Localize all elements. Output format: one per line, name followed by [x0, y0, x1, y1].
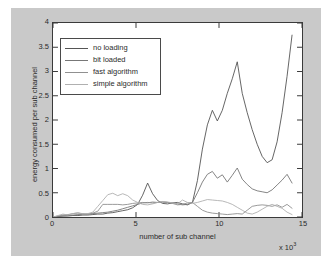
- y-tick-label: 4: [45, 18, 49, 26]
- x-axis-multiplier-exponent: 3: [293, 241, 296, 247]
- legend-item[interactable]: fast algorithm: [65, 66, 156, 78]
- x-axis-tick-labels: 051015: [52, 220, 303, 232]
- legend-item[interactable]: bit loaded: [65, 54, 156, 66]
- y-tick-label: 3: [45, 67, 49, 75]
- legend-item-label: no loading: [93, 44, 128, 52]
- y-tick-label: 0: [45, 214, 49, 222]
- y-tick-label: 1: [45, 165, 49, 173]
- legend: no loadingbit loadedfast algorithmsimple…: [60, 38, 161, 95]
- legend-item[interactable]: no loading: [65, 42, 156, 54]
- legend-line-icon: [65, 60, 88, 61]
- legend-item-label: bit loaded: [93, 56, 126, 64]
- x-axis-label: number of sub channel: [52, 232, 303, 241]
- y-tick-label: 0.5: [39, 190, 49, 198]
- x-axis-multiplier-base: x 10: [279, 243, 293, 252]
- legend-item-label: fast algorithm: [93, 68, 138, 76]
- legend-item-label: simple algorithm: [93, 80, 148, 88]
- y-tick-label: 2: [45, 116, 49, 124]
- series-line: [53, 168, 292, 217]
- x-tick-label: 10: [215, 220, 223, 228]
- x-axis-multiplier: x 103: [279, 241, 296, 252]
- x-tick-label: 5: [134, 220, 138, 228]
- y-axis-label: energy consumed per sub channel: [30, 50, 39, 200]
- legend-line-icon: [65, 72, 88, 73]
- legend-item[interactable]: simple algorithm: [65, 78, 156, 90]
- figure-background: 00.511.522.533.54 energy consumed per su…: [11, 8, 321, 256]
- legend-line-icon: [65, 84, 88, 85]
- legend-line-icon: [65, 48, 88, 49]
- y-tick-label: 2.5: [39, 92, 49, 100]
- x-tick-label: 0: [50, 220, 54, 228]
- y-tick-label: 3.5: [39, 43, 49, 51]
- y-tick-label: 1.5: [39, 141, 49, 149]
- x-tick-label: 15: [299, 220, 307, 228]
